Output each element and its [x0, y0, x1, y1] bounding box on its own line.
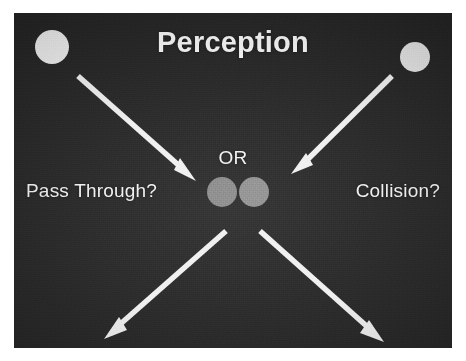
- collision-label: Collision?: [356, 180, 440, 202]
- arrow-outgoing-right: [260, 231, 384, 342]
- or-label: OR: [14, 147, 452, 169]
- arrow-outgoing-left: [104, 231, 226, 339]
- ball-center-left: [207, 177, 237, 207]
- slide-panel: Perception OR Pass Through? Collision?: [14, 13, 452, 348]
- ball-center-right: [239, 177, 269, 207]
- slide-canvas: Perception OR Pass Through? Collision?: [0, 0, 466, 361]
- pass-through-label: Pass Through?: [26, 180, 157, 202]
- page-title: Perception: [14, 26, 452, 59]
